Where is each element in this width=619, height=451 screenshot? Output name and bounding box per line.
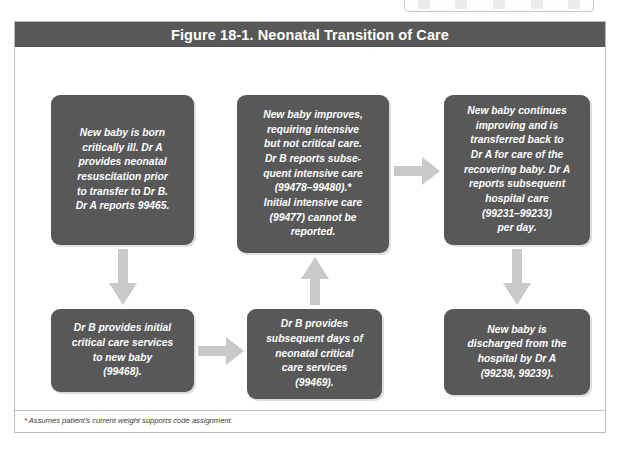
flow-box-6-text: New baby is discharged from the hospital… [468, 323, 567, 381]
figure-title-bar: Figure 18-1. Neonatal Transition of Care [15, 22, 605, 47]
flow-box-5: Dr B provides subsequent days of neonata… [247, 309, 382, 399]
toolbar-icon-1[interactable] [418, 0, 430, 9]
flow-box-1-text: New baby is born critically ill. Dr A pr… [76, 126, 170, 214]
flow-box-6: New baby is discharged from the hospital… [444, 309, 590, 395]
arrow-right-icon [394, 157, 440, 185]
figure-title: Figure 18-1. Neonatal Transition of Care [171, 27, 449, 43]
flow-box-2-text: New baby improves, requiring intensive b… [263, 108, 363, 239]
figure-footnote: * Assumes patient's current weight suppo… [24, 416, 233, 425]
flow-box-5-text: Dr B provides subsequent days of neonata… [266, 317, 363, 390]
toolbar-icon-5[interactable] [568, 0, 580, 9]
flow-box-3: New baby continues improving and is tran… [444, 95, 590, 245]
flow-box-1: New baby is born critically ill. Dr A pr… [51, 95, 194, 245]
figure-container: Figure 18-1. Neonatal Transition of Care… [14, 21, 606, 433]
toolbar-icon-4[interactable] [531, 0, 543, 9]
toolbar-icon-3[interactable] [493, 0, 505, 9]
flow-box-4-text: Dr B provides initial critical care serv… [72, 321, 173, 379]
arrow-right-icon [198, 337, 244, 365]
figure-footer: * Assumes patient's current weight suppo… [15, 410, 605, 432]
toolbar-icon-2[interactable] [455, 0, 467, 9]
arrow-down-icon [503, 249, 531, 305]
toolbar-remnant [404, 0, 594, 12]
flow-box-4: Dr B provides initial critical care serv… [51, 309, 194, 392]
arrow-down-icon [109, 249, 137, 305]
arrow-up-icon [301, 257, 329, 305]
flow-box-3-text: New baby continues improving and is tran… [464, 104, 570, 235]
flow-box-2: New baby improves, requiring intensive b… [237, 95, 389, 253]
figure-flowchart-body: New baby is born critically ill. Dr A pr… [15, 47, 605, 410]
